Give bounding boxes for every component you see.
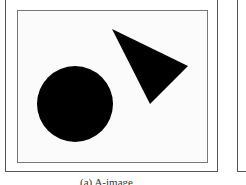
black-circle xyxy=(37,66,113,142)
black-triangle xyxy=(112,29,188,104)
shapes-canvas xyxy=(0,0,246,185)
figure-caption: (a) A-image xyxy=(0,176,213,185)
